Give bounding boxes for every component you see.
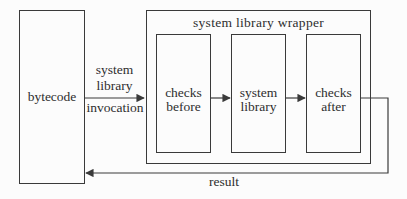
diagram-canvas: bytecode system library wrapper checks b… (0, 0, 407, 199)
wrapper-title: system library wrapper (146, 15, 371, 31)
checks-before-label-line1: checks (165, 86, 202, 100)
system-library-label-line1: system (240, 86, 278, 100)
system-library-label-line2: library (241, 100, 277, 114)
checks-before-label-line2: before (166, 100, 200, 114)
invocation-label-line1: system (84, 62, 145, 78)
system-library-box: system library (231, 34, 286, 153)
invocation-label-line3: invocation (84, 100, 146, 116)
invocation-label-lower: invocation (84, 100, 146, 116)
invocation-label-upper: system library (84, 62, 145, 94)
result-label: result (194, 174, 254, 190)
checks-before-box: checks before (156, 34, 211, 153)
invocation-label-line2: library (84, 78, 145, 94)
checks-after-box: checks after (306, 34, 361, 153)
checks-after-label-line1: checks (315, 86, 352, 100)
bytecode-label: bytecode (28, 89, 77, 105)
bytecode-box: bytecode (19, 10, 85, 184)
checks-after-label-line2: after (321, 100, 346, 114)
